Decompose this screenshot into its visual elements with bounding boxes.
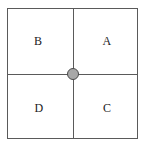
quadrant-label-top-left: B <box>27 32 49 50</box>
quadrant-label-bottom-right: C <box>96 99 118 117</box>
quadrant-label-bottom-left: D <box>28 99 50 117</box>
origin-node-marker <box>67 68 79 80</box>
quadrant-diagram: B A D C <box>0 0 146 148</box>
quadrant-label-top-right: A <box>96 32 118 50</box>
